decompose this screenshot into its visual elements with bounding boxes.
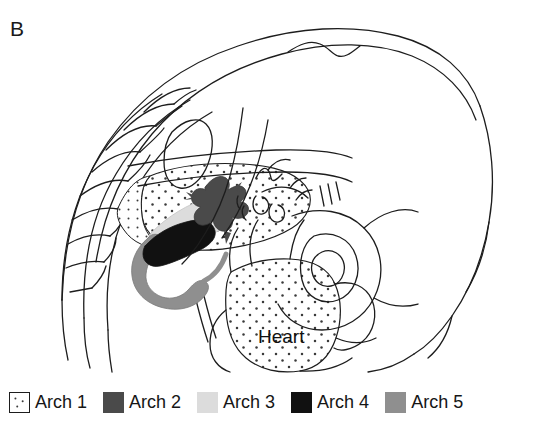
legend-item-arch-1: Arch 1 [9,392,87,413]
heart-region [226,259,341,372]
legend-item-arch-3: Arch 3 [197,392,275,413]
pericardium-right [336,338,376,343]
tail-fold-line [428,316,452,358]
embryo-diagram-svg: Heart [0,0,535,382]
tick-2 [328,184,332,204]
somite-line-2 [66,261,104,268]
legend-lead-space [0,402,9,403]
somite-arc-1 [92,266,106,288]
cranial-right-outline [414,106,492,354]
arch-legend: Arch 1 Arch 2 Arch 3 Arch 4 Arch 5 [0,385,535,419]
lower-right-contour [368,354,414,372]
somite-line-9 [144,88,190,112]
arch2-swatch [103,392,124,413]
legend-label-arch-3: Arch 3 [223,392,275,413]
somite-arc-7 [156,106,182,126]
left-wall-tail-inner [108,330,112,372]
arch4-swatch [291,392,312,413]
arch1-stipple-icon [10,393,29,412]
tick-3 [336,182,340,200]
legend-gap-4 [369,402,385,403]
figure-root: B [0,0,535,426]
somite-line-3 [68,235,110,244]
somite-line-1 [70,288,92,292]
somite-line-4 [72,208,118,220]
arch3-swatch [197,392,218,413]
pericardial-stroke-1 [204,296,216,338]
arch1-swatch [9,392,30,413]
legend-label-arch-5: Arch 5 [411,392,463,413]
legend-gap-2 [181,402,197,403]
frontonasal-curve [364,210,418,228]
legend-item-arch-4: Arch 4 [291,392,369,413]
tick-1 [320,186,324,206]
legend-item-arch-2: Arch 2 [103,392,181,413]
arch5-tail [204,254,226,281]
legend-label-arch-1: Arch 1 [35,392,87,413]
body-right-inner [466,222,489,292]
embryo-drawing: Heart [0,0,535,382]
legend-label-arch-2: Arch 2 [129,392,181,413]
mandibular-curve [374,298,418,306]
arch5-swatch [385,392,406,413]
left-wall-tail [62,300,68,360]
legend-label-arch-4: Arch 4 [317,392,369,413]
left-wall-tail-mid [84,318,90,368]
legend-gap-3 [275,402,291,403]
heart-label: Heart [258,326,305,347]
legend-item-arch-5: Arch 5 [385,392,463,413]
somite-arc-6 [140,128,164,152]
legend-gap-1 [87,402,103,403]
